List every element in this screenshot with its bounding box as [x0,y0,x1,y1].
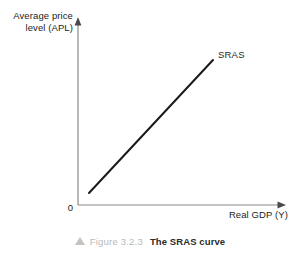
x-axis-label: Real GDP (Y) [150,209,288,221]
chart-plot-area [0,0,300,228]
x-axis-arrow-icon [278,202,287,209]
figure-caption: Figure 3.2.3 The SRAS curve [0,231,300,251]
caption-figure-number: Figure 3.2.3 [90,235,143,248]
y-axis-label: Average price level (APL) [4,10,73,34]
y-axis-arrow-icon [75,17,82,26]
origin-label: 0 [59,202,73,214]
sras-curve-label: SRAS [218,49,245,61]
sras-curve [89,60,213,193]
caption-figure-title: The SRAS curve [150,235,225,248]
figure-container: Average price level (APL) Real GDP (Y) 0… [0,0,300,260]
triangle-up-icon [75,237,85,245]
